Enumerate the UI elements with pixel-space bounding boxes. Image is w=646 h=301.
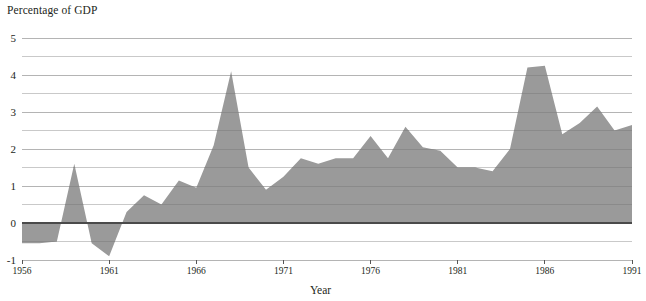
x-axis-tick-label: 1976: [351, 266, 391, 277]
y-axis-tick-label: 5: [0, 33, 16, 44]
x-axis-tick-label: 1986: [525, 266, 565, 277]
y-axis-tick-label: 4: [0, 70, 16, 81]
x-axis-tick-marks: [22, 260, 632, 264]
x-axis-tick-label: 1956: [2, 266, 42, 277]
y-axis-tick-label: -1: [0, 255, 16, 266]
x-axis-tick-label: 1961: [89, 266, 129, 277]
y-axis-tick-label: 2: [0, 144, 16, 155]
x-axis-tick-label: 1991: [612, 266, 646, 277]
y-axis-tick-label: 3: [0, 107, 16, 118]
y-axis-tick-label: 0: [0, 218, 16, 229]
x-axis-tick-label: 1971: [263, 266, 303, 277]
y-axis-tick-label: 1: [0, 181, 16, 192]
x-axis-title: Year: [0, 284, 641, 297]
x-axis-tick-label: 1981: [438, 266, 478, 277]
x-axis-tick-label: 1966: [176, 266, 216, 277]
